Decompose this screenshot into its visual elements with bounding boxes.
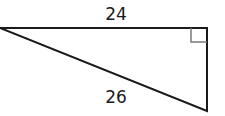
hypotenuse-label: 26: [105, 87, 127, 107]
triangle: [0, 28, 207, 111]
top-side-label: 24: [105, 4, 127, 24]
right-angle-marker: [191, 28, 207, 42]
triangle-diagram: 24 26: [0, 0, 225, 116]
